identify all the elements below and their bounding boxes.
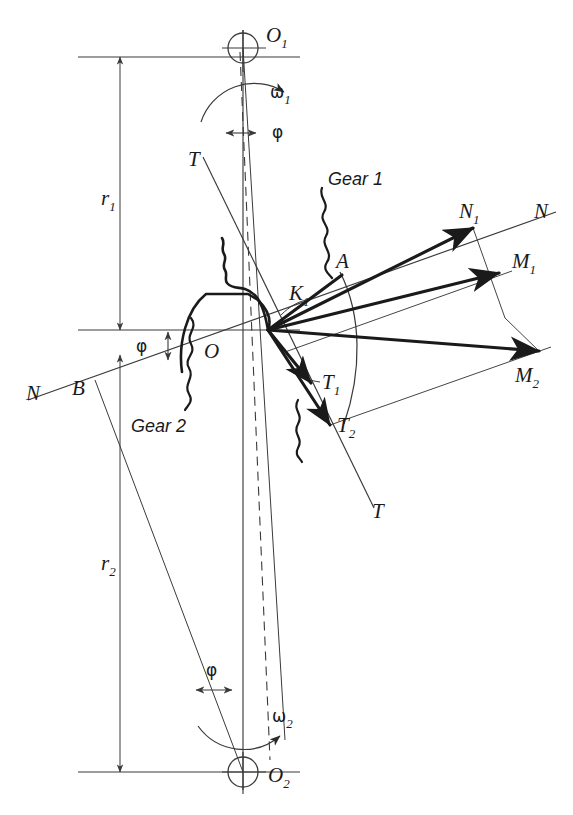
vector-M2 (268, 330, 539, 351)
label-K1: K1 (288, 281, 310, 309)
radius-line-o1-k1 (243, 48, 285, 740)
label-r1: r1 (101, 186, 116, 214)
label-r2: r2 (101, 551, 116, 579)
label-phi-bottom: φ (206, 660, 217, 680)
label-o2: O2 (268, 763, 290, 791)
label-N1: N1 (458, 199, 480, 227)
label-M2: M2 (514, 363, 540, 391)
label-N-right: N (533, 199, 549, 223)
omega2-rotation-arc (198, 726, 280, 749)
label-phi-pitch: φ (136, 336, 147, 356)
contact-leader-squiggle (296, 400, 302, 462)
label-phi-top: φ (272, 122, 283, 142)
gear-kinematics-diagram: O1 O2 ω1 ω2 φ φ φ r1 r2 N N N1 M1 M2 T T… (0, 0, 573, 815)
label-T-top: T (188, 147, 201, 171)
label-omega1: ω1 (270, 82, 291, 107)
gear2-leader-squiggle (185, 318, 194, 410)
label-gear2: Gear 2 (131, 416, 186, 436)
vector-N1 (268, 228, 473, 330)
gear1-leader-squiggle (321, 188, 332, 278)
velocity-arc-through-A (340, 272, 357, 424)
label-N-left: N (25, 381, 41, 405)
diagram-canvas: O1 O2 ω1 ω2 φ φ φ r1 r2 N N N1 M1 M2 T T… (0, 0, 573, 815)
label-gear1: Gear 1 (328, 169, 383, 189)
label-omega2: ω2 (272, 706, 293, 731)
perpendicular-o2-to-B (95, 380, 243, 772)
projection-corner-line (505, 318, 539, 351)
dashed-reference-line (240, 52, 270, 760)
vector-T2 (268, 330, 330, 425)
label-T-bottom: T (372, 499, 385, 523)
label-o1: O1 (266, 23, 288, 51)
label-M1: M1 (511, 249, 536, 277)
label-T1: T1 (322, 370, 340, 398)
gear1-tooth-profile (222, 238, 268, 330)
gear2-tooth-profile (181, 294, 270, 372)
label-point-B: B (72, 376, 85, 400)
label-pitch-point: O (204, 339, 219, 363)
label-point-A: A (334, 249, 349, 273)
